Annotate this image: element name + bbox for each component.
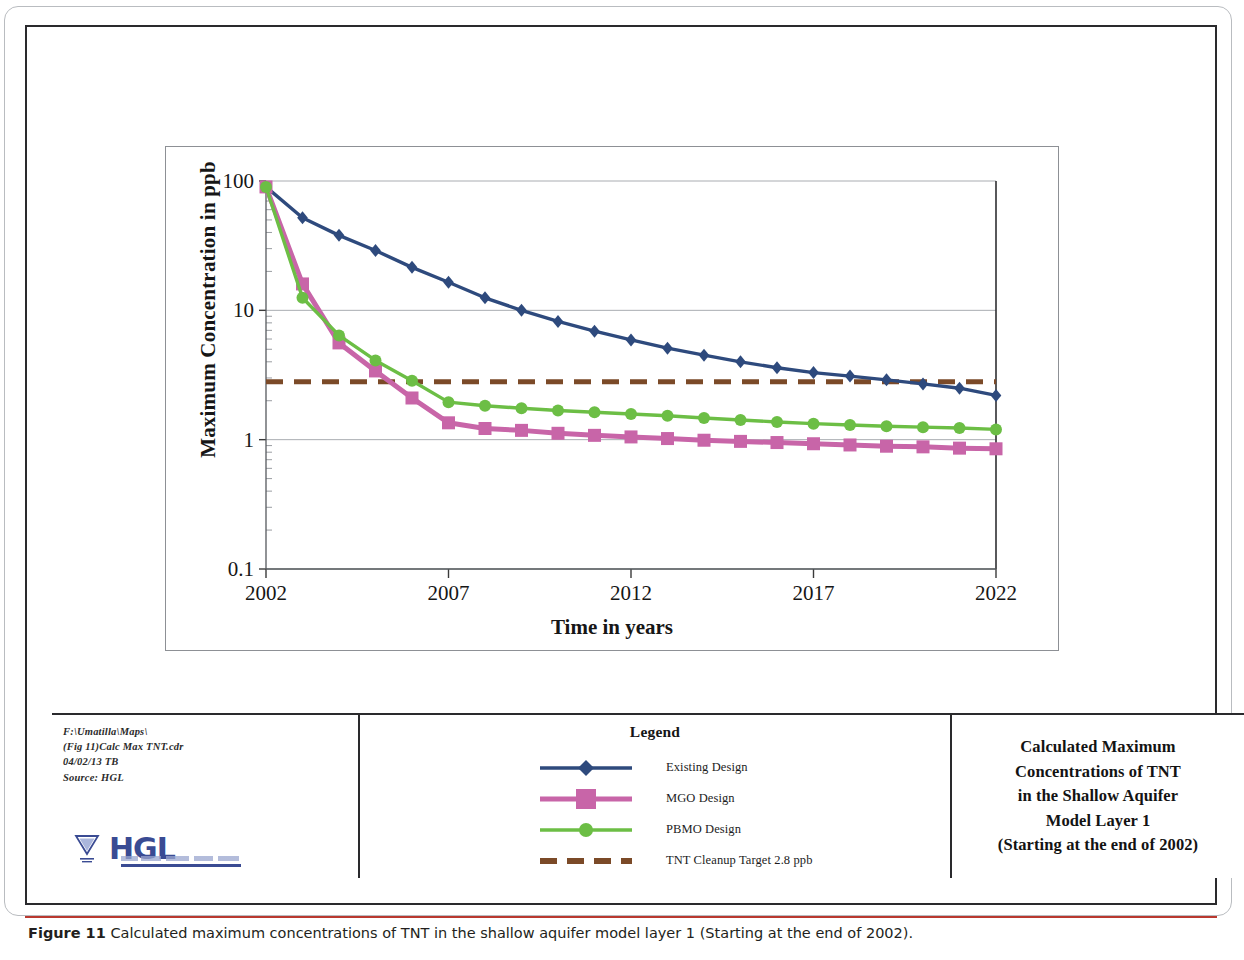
source-line: Source: HGL — [63, 770, 358, 785]
data-point — [626, 333, 637, 346]
data-point — [443, 276, 454, 289]
data-point — [990, 423, 1002, 435]
legend-title: Legend — [360, 723, 950, 741]
data-point — [918, 377, 929, 390]
legend-label: Existing Design — [666, 760, 748, 775]
y-tick-label: 0.1 — [228, 557, 254, 582]
y-tick-label: 10 — [233, 298, 254, 323]
data-point — [917, 440, 930, 453]
title-line: Model Layer 1 — [998, 809, 1198, 833]
data-point — [552, 427, 565, 440]
figure-caption: Figure 11 Calculated maximum concentrati… — [28, 925, 913, 941]
x-axis-label: Time in years — [166, 615, 1058, 640]
legend-square-icon — [538, 788, 634, 810]
x-tick-label: 2022 — [975, 581, 1017, 606]
data-point — [734, 435, 747, 448]
data-point — [407, 261, 418, 274]
x-tick-label: 2002 — [245, 581, 287, 606]
legend-label: TNT Cleanup Target 2.8 ppb — [666, 853, 813, 868]
title-line: in the Shallow Aquifer — [998, 784, 1198, 808]
data-point — [625, 430, 638, 443]
data-point — [953, 442, 966, 455]
data-point — [990, 442, 1003, 455]
water-table-icon — [74, 830, 100, 864]
data-point — [698, 412, 710, 424]
data-point — [807, 437, 820, 450]
logo-underline — [121, 864, 241, 867]
data-point — [625, 408, 637, 420]
data-point — [516, 304, 527, 317]
data-point — [552, 405, 564, 417]
title-block: Calculated Maximum Concentrations of TNT… — [952, 713, 1244, 878]
legend-panel: Legend Existing DesignMGO DesignPBMO Des… — [360, 713, 952, 878]
caption-label: Figure 11 — [28, 925, 106, 941]
data-point — [515, 424, 528, 437]
data-point — [954, 382, 965, 395]
x-tick-label: 2007 — [428, 581, 470, 606]
x-tick-label: 2012 — [610, 581, 652, 606]
data-point — [735, 414, 747, 426]
data-point — [808, 366, 819, 379]
figure-frame: Maximum Concentration in ppb Time in yea… — [25, 25, 1217, 905]
legend-diamond-icon — [538, 757, 634, 779]
hgl-logo: HGL — [74, 830, 175, 864]
bottom-strip: F:\Umatilla\Maps\ (Fig 11)Calc Max TNT.c… — [52, 713, 1244, 878]
legend-label: PBMO Design — [666, 822, 741, 837]
data-point — [442, 416, 455, 429]
title-line: (Starting at the end of 2002) — [998, 833, 1198, 857]
source-line: (Fig 11)Calc Max TNT.cdr — [63, 739, 358, 754]
chart-svg — [266, 181, 996, 569]
data-point — [771, 436, 784, 449]
legend-item: PBMO Design — [538, 814, 950, 845]
title-lines: Calculated Maximum Concentrations of TNT… — [998, 735, 1198, 857]
y-tick-label: 100 — [223, 169, 255, 194]
data-point — [771, 416, 783, 428]
legend-item: TNT Cleanup Target 2.8 ppb — [538, 845, 950, 876]
logo-tagline — [121, 856, 239, 861]
data-point — [297, 292, 309, 304]
data-point — [772, 361, 783, 374]
data-point — [479, 400, 491, 412]
data-point — [588, 429, 601, 442]
data-point — [735, 355, 746, 368]
data-point — [881, 420, 893, 432]
data-point — [880, 440, 893, 453]
data-point — [917, 421, 929, 433]
legend-label: MGO Design — [666, 791, 735, 806]
y-axis-label: Maximum Concentration in ppb — [196, 160, 221, 460]
data-point — [406, 375, 418, 387]
data-point — [589, 325, 600, 338]
source-line: F:\Umatilla\Maps\ — [63, 724, 358, 739]
chart-container: Maximum Concentration in ppb Time in yea… — [165, 146, 1059, 651]
data-point — [516, 402, 528, 414]
source-line: 04/02/13 TB — [63, 754, 358, 769]
data-point — [370, 354, 382, 366]
data-point — [260, 181, 272, 193]
source-block: F:\Umatilla\Maps\ (Fig 11)Calc Max TNT.c… — [52, 713, 360, 878]
data-point — [589, 406, 601, 418]
legend-item: MGO Design — [538, 783, 950, 814]
x-tick-label: 2017 — [793, 581, 835, 606]
data-point — [479, 422, 492, 435]
series-line — [266, 187, 996, 430]
data-point — [406, 391, 419, 404]
data-point — [881, 373, 892, 386]
data-point — [844, 419, 856, 431]
data-point — [698, 434, 711, 447]
series-pbmo-design — [260, 181, 1002, 436]
title-line: Calculated Maximum — [998, 735, 1198, 759]
y-tick-label: 1 — [244, 427, 255, 452]
data-point — [662, 410, 674, 422]
legend-item: Existing Design — [538, 752, 950, 783]
title-line: Concentrations of TNT — [998, 760, 1198, 784]
data-point — [370, 244, 381, 257]
data-point — [480, 291, 491, 304]
data-point — [662, 342, 673, 355]
data-point — [699, 349, 710, 362]
data-point — [661, 432, 674, 445]
data-point — [333, 329, 345, 341]
data-point — [844, 438, 857, 451]
data-point — [553, 315, 564, 328]
data-point — [845, 370, 856, 383]
caption-rule — [25, 916, 1217, 918]
